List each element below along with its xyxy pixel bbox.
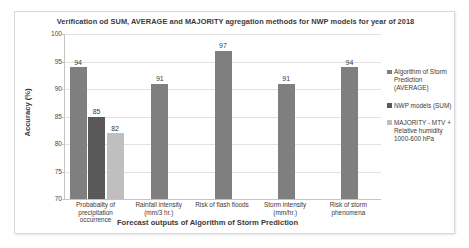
y-tick-mark-75 (62, 172, 65, 173)
y-tick-label-90: 90 (22, 85, 62, 92)
bar[interactable]: 91 (278, 84, 295, 200)
y-tick-mark-80 (62, 144, 65, 145)
bar-value-label: 85 (93, 108, 101, 115)
bar-value-label: 91 (156, 75, 164, 82)
y-tick-mark-70 (62, 199, 65, 200)
legend-swatch-icon (387, 70, 392, 75)
y-tick-label-100: 100 (22, 30, 62, 37)
bar-value-label: 97 (219, 42, 227, 49)
y-tick-mark-100 (62, 34, 65, 35)
legend-item[interactable]: MAJORITY - MTV + Relative humidity 1000-… (387, 119, 453, 144)
legend-swatch-icon (387, 103, 392, 108)
bar[interactable]: 94 (341, 67, 358, 199)
bar[interactable]: 97 (215, 51, 232, 200)
x-category-label: Probabality of precipitation occurrence (64, 201, 127, 224)
y-tick-label-75: 75 (22, 168, 62, 175)
y-tick-label-85: 85 (22, 113, 62, 120)
legend-item[interactable]: Algorithm of Storm Prediction (AVERAGE) (387, 68, 453, 93)
legend-label: NWP models (SUM) (394, 102, 451, 110)
x-category-label: Rainfall intensity (mm/3 hr.) (127, 201, 190, 216)
y-tick-mark-95 (62, 62, 65, 63)
bar-group: 91 (278, 34, 295, 199)
plot-area: 10095908580757094858291979194 (64, 34, 380, 199)
bar[interactable]: 82 (107, 133, 124, 199)
bar-group: 94 (341, 34, 358, 199)
y-tick-label-80: 80 (22, 140, 62, 147)
chart-title: Verification od SUM, AVERAGE and MAJORIT… (15, 17, 456, 26)
y-tick-label-70: 70 (22, 195, 62, 202)
x-category-label: Risk of flash floods (190, 201, 253, 209)
bar[interactable]: 91 (151, 84, 168, 200)
chart-legend: Algorithm of Storm Prediction (AVERAGE)N… (387, 68, 453, 152)
chart-container: Verification od SUM, AVERAGE and MAJORIT… (14, 11, 455, 234)
y-tick-label-95: 95 (22, 58, 62, 65)
x-category-label: Risk of storm phenomena (317, 201, 380, 216)
bar-value-label: 91 (282, 75, 290, 82)
bar-group: 91 (151, 34, 168, 199)
bar-value-label: 82 (111, 125, 119, 132)
legend-item[interactable]: NWP models (SUM) (387, 102, 453, 110)
legend-label: Algorithm of Storm Prediction (AVERAGE) (394, 68, 453, 93)
legend-label: MAJORITY - MTV + Relative humidity 1000-… (394, 119, 453, 144)
bar[interactable]: 94 (70, 67, 87, 199)
y-tick-mark-90 (62, 89, 65, 90)
bar-group: 97 (215, 34, 232, 199)
legend-swatch-icon (387, 120, 392, 125)
bar-group: 948582 (70, 34, 124, 199)
gridline-70 (65, 199, 381, 200)
bar-value-label: 94 (345, 59, 353, 66)
bar[interactable]: 85 (88, 117, 105, 200)
x-category-label: Storm intensity (mm/hr.) (254, 201, 317, 216)
bar-value-label: 94 (74, 59, 82, 66)
y-tick-mark-85 (62, 117, 65, 118)
